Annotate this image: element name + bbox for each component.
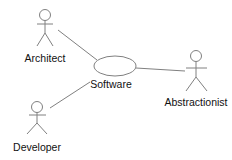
association-developer-software xyxy=(50,82,90,108)
actor-architect-icon[interactable] xyxy=(37,10,53,47)
use-case-software[interactable] xyxy=(94,56,136,76)
actor-developer-label: Developer xyxy=(13,141,61,153)
use-case-software-label: Software xyxy=(90,78,131,90)
association-abstractionist-software xyxy=(136,68,185,71)
actor-developer-icon[interactable] xyxy=(27,102,47,135)
actor-abstractionist-label: Abstractionist xyxy=(164,96,227,108)
actor-architect-label: Architect xyxy=(25,52,66,64)
actor-abstractionist-icon[interactable] xyxy=(186,51,207,92)
